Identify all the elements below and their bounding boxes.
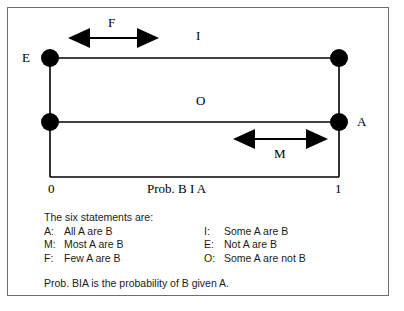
- legend-columns: A: All A are B M: Most A are B F: Few A …: [44, 225, 364, 266]
- legend-text: Few A are B: [64, 252, 204, 266]
- segment-label-O: O: [196, 94, 205, 107]
- legend-heading: The six statements are:: [44, 211, 364, 225]
- list-item: O: Some A are not B: [204, 252, 364, 266]
- list-item: I: Some A are B: [204, 225, 364, 239]
- legend-text: Some A are B: [224, 225, 364, 239]
- legend-key: M:: [44, 238, 64, 252]
- figure-caption: Prob. BIA is the probability of B given …: [44, 277, 229, 291]
- segment-label-M: M: [274, 147, 286, 160]
- legend-column-left: A: All A are B M: Most A are B F: Few A …: [44, 225, 204, 266]
- node-label-A: A: [357, 115, 366, 128]
- axis-tick-max: 1: [335, 182, 342, 195]
- legend-column-right: I: Some A are B E: Not A are B O: Some A…: [204, 225, 364, 266]
- legend-key: F:: [44, 252, 64, 266]
- node-dot-upper-left: [41, 49, 59, 67]
- list-item: A: All A are B: [44, 225, 204, 239]
- axis-tick-min: 0: [48, 182, 55, 195]
- segment-label-F: F: [108, 16, 115, 29]
- list-item: E: Not A are B: [204, 238, 364, 252]
- figure-root: E A I O F M 0 1 Prob. B I A The six stat…: [0, 0, 404, 311]
- node-dot-upper-right: [330, 49, 348, 67]
- legend-key: A:: [44, 225, 64, 239]
- legend-text: Not A are B: [224, 238, 364, 252]
- node-dot-lower-left: [41, 113, 59, 131]
- node-label-E: E: [22, 51, 30, 64]
- legend-text: All A are B: [64, 225, 204, 239]
- axis-title: Prob. B I A: [147, 182, 206, 195]
- node-dot-lower-right: [330, 113, 348, 131]
- legend: The six statements are: A: All A are B M…: [44, 211, 364, 265]
- legend-key: I:: [204, 225, 224, 239]
- segment-label-I: I: [196, 29, 200, 42]
- legend-text: Most A are B: [64, 238, 204, 252]
- legend-key: E:: [204, 238, 224, 252]
- legend-text: Some A are not B: [224, 252, 364, 266]
- list-item: F: Few A are B: [44, 252, 204, 266]
- double-arrow-F: [68, 28, 159, 48]
- legend-key: O:: [204, 252, 224, 266]
- list-item: M: Most A are B: [44, 238, 204, 252]
